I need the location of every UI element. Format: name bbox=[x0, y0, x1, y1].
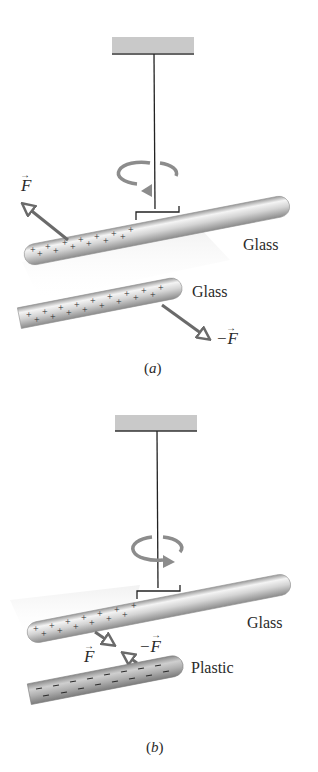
force-arrow-f bbox=[95, 632, 114, 645]
svg-text:+: + bbox=[30, 244, 36, 255]
svg-text:+: + bbox=[97, 608, 103, 619]
svg-text:+: + bbox=[90, 295, 96, 306]
svg-text:+: + bbox=[150, 289, 156, 300]
svg-text:+: + bbox=[114, 604, 120, 615]
svg-text:+: + bbox=[49, 620, 55, 631]
svg-text:+: + bbox=[26, 309, 32, 320]
vector-arrow-glyph: → bbox=[20, 169, 30, 180]
label-glass-suspended: Glass bbox=[243, 236, 279, 253]
svg-text:+: + bbox=[58, 302, 64, 313]
svg-text:+: + bbox=[120, 231, 126, 242]
svg-text:+: + bbox=[116, 296, 122, 307]
svg-text:+: + bbox=[107, 291, 113, 302]
svg-text:+: + bbox=[99, 300, 105, 311]
caption-a: (a) bbox=[144, 360, 162, 377]
panel-a: ++++ ++++ ++++ + F → Glass ++++ ++++ +++… bbox=[17, 37, 291, 377]
ceiling-block bbox=[112, 37, 194, 53]
label-glass-lower: Glass bbox=[192, 283, 228, 300]
rotation-arrow-icon bbox=[118, 162, 176, 197]
svg-text:+: + bbox=[141, 285, 147, 296]
svg-text:+: + bbox=[82, 304, 88, 315]
label-glass-suspended: Glass bbox=[247, 614, 283, 631]
svg-text:+: + bbox=[86, 238, 92, 249]
vector-arrow-glyph: → bbox=[84, 640, 94, 651]
suspension-thread bbox=[157, 431, 158, 588]
svg-text:+: + bbox=[124, 288, 130, 299]
svg-text:+: + bbox=[131, 600, 137, 611]
svg-text:+: + bbox=[57, 625, 63, 636]
svg-text:+: + bbox=[158, 282, 164, 293]
svg-text:+: + bbox=[66, 307, 72, 318]
plastic-rod bbox=[27, 654, 185, 704]
svg-text:+: + bbox=[65, 616, 71, 627]
label-plastic: Plastic bbox=[191, 659, 234, 676]
force-arrow-f bbox=[23, 204, 68, 240]
svg-text:+: + bbox=[133, 292, 139, 303]
force-arrow-neg-f bbox=[123, 653, 137, 663]
ceiling-block bbox=[115, 415, 197, 431]
force-arrow-neg-f bbox=[162, 305, 209, 339]
caption-b: (b) bbox=[146, 739, 164, 756]
svg-text:+: + bbox=[122, 609, 128, 620]
svg-text:+: + bbox=[50, 311, 56, 322]
svg-text:+: + bbox=[128, 224, 134, 235]
svg-text:+: + bbox=[70, 241, 76, 252]
svg-text:+: + bbox=[37, 248, 43, 259]
vector-arrow-glyph: → bbox=[151, 629, 161, 640]
charged-rods-diagram: ++++ ++++ ++++ + F → Glass ++++ ++++ +++… bbox=[0, 0, 318, 772]
suspension-thread bbox=[154, 54, 155, 209]
svg-text:+: + bbox=[45, 241, 51, 252]
svg-text:+: + bbox=[74, 299, 80, 310]
svg-text:+: + bbox=[111, 228, 117, 239]
svg-text:+: + bbox=[94, 231, 100, 242]
panel-b: ++++ ++++ ++++ + F → −F → Glass Plastic bbox=[10, 415, 292, 756]
svg-text:+: + bbox=[41, 628, 47, 639]
svg-text:+: + bbox=[42, 306, 48, 317]
svg-text:+: + bbox=[89, 617, 95, 628]
svg-text:+: + bbox=[103, 235, 109, 246]
svg-text:+: + bbox=[78, 234, 84, 245]
vector-arrow-glyph: → bbox=[226, 322, 236, 333]
svg-text:+: + bbox=[53, 245, 59, 256]
svg-text:+: + bbox=[73, 621, 79, 632]
svg-text:+: + bbox=[34, 314, 40, 325]
svg-text:+: + bbox=[33, 623, 39, 634]
svg-text:+: + bbox=[106, 613, 112, 624]
svg-text:+: + bbox=[81, 612, 87, 623]
